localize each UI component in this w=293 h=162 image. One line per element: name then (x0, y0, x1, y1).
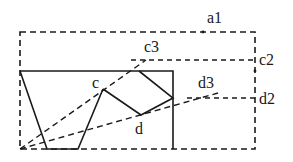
label-d3: d3 (198, 74, 214, 91)
folded-shape-right (103, 71, 173, 115)
geometry-diagram: a1 c3 c2 d3 d2 c d (0, 0, 293, 162)
ray-origin-d3 (20, 93, 218, 149)
label-d2: d2 (259, 90, 275, 107)
label-c3: c3 (144, 38, 159, 55)
label-c: c (92, 74, 99, 91)
label-d: d (135, 120, 143, 137)
label-a1: a1 (207, 9, 222, 26)
label-c2: c2 (259, 51, 274, 68)
point-right-marker (254, 70, 257, 73)
point-a1-marker (202, 31, 205, 34)
